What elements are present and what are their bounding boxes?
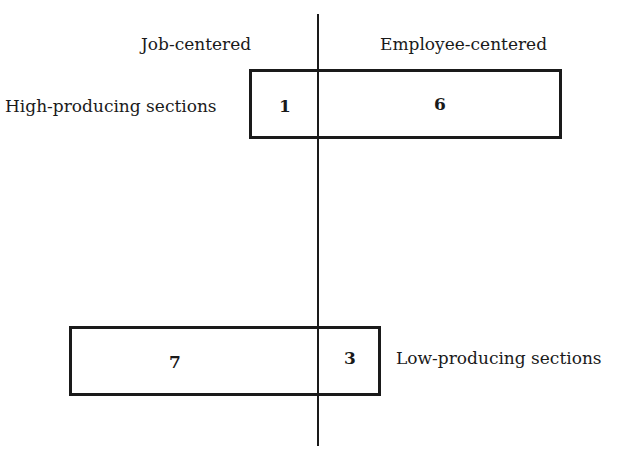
high-employee-centered-count: 6 <box>430 94 450 114</box>
high-producing-box <box>249 69 562 139</box>
column-label-job-centered: Job-centered <box>141 34 251 54</box>
row-label-low-producing: Low-producing sections <box>396 348 602 368</box>
low-job-centered-count: 7 <box>165 352 185 372</box>
column-label-employee-centered: Employee-centered <box>380 34 547 54</box>
high-job-centered-count: 1 <box>275 96 295 116</box>
row-label-high-producing: High-producing sections <box>5 96 217 116</box>
low-producing-box <box>69 326 381 396</box>
low-employee-centered-count: 3 <box>340 348 360 368</box>
